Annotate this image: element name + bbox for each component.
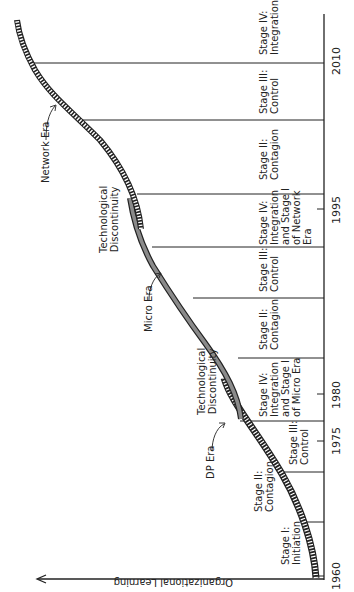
stage-label-network-3: Stage III: Control — [258, 70, 280, 114]
stage-label-micro-3: Stage III: Control — [258, 248, 280, 292]
y-axis-label: Organizational Learning — [114, 577, 233, 588]
stage-label-network-4: Stage IV: Integration — [258, 0, 280, 55]
year-1975: 1975 — [330, 427, 343, 455]
year-1960: 1960 — [330, 562, 343, 590]
stage-label-micro-2: Stage II: Contagion — [258, 299, 280, 350]
year-1980: 1980 — [330, 381, 343, 409]
network-era-label: Network Era — [40, 122, 51, 184]
network-era-curve — [17, 20, 141, 229]
micro-era-label: Micro Era — [143, 285, 154, 332]
stage-dividers — [33, 63, 324, 522]
stage-label-dp-1: Stage I: Initiation — [280, 521, 302, 565]
discontinuity-2-label: Technological Discontinuity — [98, 186, 120, 253]
dp-era-label: DP Era — [205, 446, 216, 479]
year-1995: 1995 — [330, 196, 343, 224]
stage-label-dp-2: Stage II: Contagion — [253, 461, 275, 512]
year-2010: 2010 — [330, 47, 343, 75]
stage-label-dp-3: Stage III: Control — [288, 421, 310, 465]
discontinuity-1-label: Technological Discontinuity — [196, 348, 218, 415]
stage-label-micro-4: Stage IV: Integration and Stage I of Net… — [258, 188, 313, 245]
stage-label-dp-4: Stage IV: Integration and Stage I of Mic… — [258, 358, 302, 417]
stages-of-growth-diagram — [0, 0, 354, 592]
stage-label-network-2: Stage II: Contagion — [258, 129, 280, 180]
